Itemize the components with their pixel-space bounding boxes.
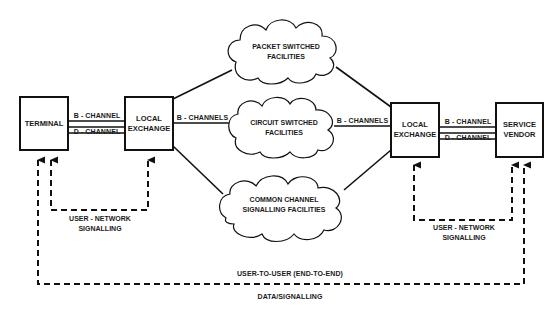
right-b-channels-label: B - CHANNELS: [335, 116, 390, 126]
right-user-network-label: USER - NETWORK SIGNALLING: [424, 222, 504, 244]
right-d-channel-label: D - CHANNEL: [441, 133, 495, 143]
right-b-channel-label: B - CHANNEL: [441, 117, 495, 127]
local-exchange-left-label: LOCAL EXCHANGE: [125, 97, 173, 150]
left-b-channels-label: B - CHANNELS: [175, 113, 230, 123]
common-cloud-label: COMMON CHANNEL SIGNALLING FACILITIES: [226, 193, 342, 217]
local-exchange-left-line2: EXCHANGE: [128, 124, 171, 134]
left-exchange-trunks: [173, 70, 232, 194]
common-cloud-line1: COMMON CHANNEL: [250, 195, 319, 205]
local-exchange-left-line1: LOCAL: [136, 114, 162, 124]
right-user-network-path: [414, 165, 512, 220]
common-cloud-line2: SIGNALLING FACILITIES: [243, 205, 326, 215]
service-vendor-label: SERVICE VENDOR: [496, 103, 543, 157]
local-exchange-right-line1: LOCAL: [402, 120, 428, 130]
left-b-channel-label: B - CHANNEL: [70, 111, 124, 121]
terminal-text: TERMINAL: [25, 119, 64, 129]
circuit-cloud-line1: CIRCUIT SWITCHED: [250, 118, 318, 128]
left-user-network-label: USER - NETWORK SIGNALLING: [60, 213, 140, 235]
service-vendor-line1: SERVICE: [503, 120, 536, 130]
circuit-cloud-line2: FACILITIES: [265, 128, 303, 138]
local-exchange-right-line2: EXCHANGE: [394, 130, 437, 140]
packet-cloud-line1: PACKET SWITCHED: [252, 42, 320, 52]
right-user-network-line2: SIGNALLING: [442, 233, 485, 243]
left-d-channel-label: D - CHANNEL: [70, 127, 124, 137]
terminal-label: TERMINAL: [20, 97, 68, 150]
packet-cloud-label: PACKET SWITCHED FACILITIES: [236, 40, 336, 64]
left-user-network-path: [51, 160, 148, 210]
service-vendor-line2: VENDOR: [503, 130, 535, 140]
packet-cloud-line2: FACILITIES: [267, 52, 305, 62]
right-exchange-trunks: [334, 67, 391, 190]
right-user-network-line1: USER - NETWORK: [433, 223, 495, 233]
local-exchange-right-label: LOCAL EXCHANGE: [391, 103, 439, 157]
circuit-cloud-label: CIRCUIT SWITCHED FACILITIES: [234, 116, 334, 140]
left-user-network-line2: SIGNALLING: [78, 224, 121, 234]
end-to-end-bottom-label: DATA/SIGNALLING: [200, 292, 380, 302]
end-to-end-top-label: USER-TO-USER (END-TO-END): [200, 269, 380, 279]
left-user-network-line1: USER - NETWORK: [69, 214, 131, 224]
